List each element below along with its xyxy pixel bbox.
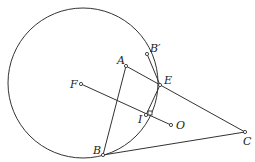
label-O: O (176, 119, 185, 132)
point-E (158, 83, 161, 86)
point-F (79, 82, 82, 85)
point-B (101, 153, 104, 156)
label-I: I (137, 113, 143, 126)
segment-AC (126, 66, 245, 132)
point-O (169, 123, 172, 126)
label-F: F (69, 78, 78, 91)
label-A: A (116, 54, 125, 67)
label-E: E (163, 74, 172, 87)
segment-BC (103, 132, 245, 155)
point-C (243, 130, 246, 133)
segment-AB (103, 66, 126, 155)
circle (8, 8, 158, 158)
label-B-prime: B′ (149, 42, 161, 55)
point-B-prime (145, 52, 148, 55)
label-C: C (243, 135, 252, 148)
label-B: B (92, 144, 101, 157)
point-I (144, 113, 147, 116)
geometry-diagram: B′ A E F I O B C (0, 0, 255, 162)
right-angle-marker (148, 111, 152, 115)
